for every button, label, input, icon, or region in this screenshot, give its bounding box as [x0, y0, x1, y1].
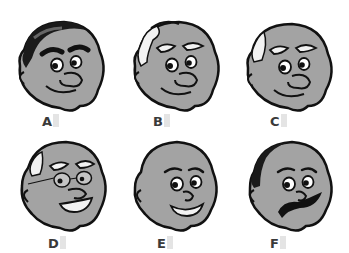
cartoon-face-f-icon	[232, 132, 348, 242]
face-cell-f: F	[232, 132, 348, 253]
face-label-a: A	[42, 114, 59, 129]
cartoon-face-d-icon	[2, 132, 118, 242]
face-cell-a: A	[2, 10, 118, 136]
cartoon-face-b-icon	[117, 10, 233, 120]
face-label-f: F	[270, 236, 286, 251]
face-cell-b: B	[117, 10, 233, 136]
cartoon-face-c-icon	[232, 10, 348, 120]
face-cell-d: D	[2, 132, 118, 253]
cartoon-face-a-icon	[2, 10, 118, 120]
face-cell-c: C	[232, 10, 348, 136]
face-label-b: B	[153, 114, 170, 129]
face-label-d: D	[48, 236, 66, 251]
face-label-c: C	[270, 114, 287, 129]
face-label-e: E	[157, 236, 173, 251]
cartoon-face-e-icon	[117, 132, 233, 242]
face-cell-e: E	[117, 132, 233, 253]
